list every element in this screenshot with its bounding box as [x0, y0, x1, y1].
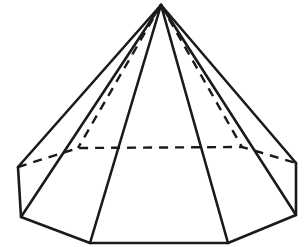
pyramid-diagram: Decagonal pyramid	[0, 0, 307, 247]
figure-container: Decagonal pyramid	[0, 0, 307, 247]
pyramid-body-fill	[18, 5, 296, 243]
